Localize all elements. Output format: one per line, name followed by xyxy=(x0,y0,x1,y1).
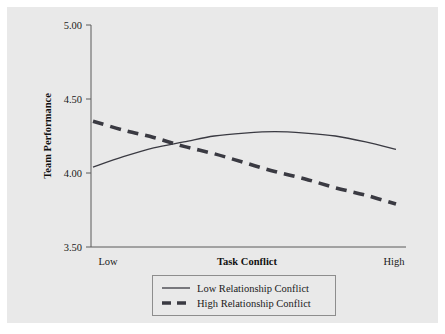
y-axis-title: Team Performance xyxy=(42,93,53,179)
x-axis-title: Task Conflict xyxy=(217,256,278,267)
y-tick-label-4-00: 4.00 xyxy=(64,168,82,179)
legend-label-high-relationship-conflict: High Relationship Conflict xyxy=(197,298,311,309)
legend-label-low-relationship-conflict: Low Relationship Conflict xyxy=(197,283,309,294)
legend-box xyxy=(153,276,336,316)
y-tick-label-3-50: 3.50 xyxy=(64,242,82,253)
x-tick-label-low: Low xyxy=(98,256,118,267)
series-line-low-relationship-conflict xyxy=(93,132,396,168)
line-chart: 5.00 4.50 4.00 3.50 Team Performance Low… xyxy=(0,0,445,334)
x-tick-label-high: High xyxy=(384,256,406,267)
chart-figure: 5.00 4.50 4.00 3.50 Team Performance Low… xyxy=(0,0,445,334)
y-tick-label-5-00: 5.00 xyxy=(64,20,82,31)
y-tick-label-4-50: 4.50 xyxy=(64,94,82,105)
